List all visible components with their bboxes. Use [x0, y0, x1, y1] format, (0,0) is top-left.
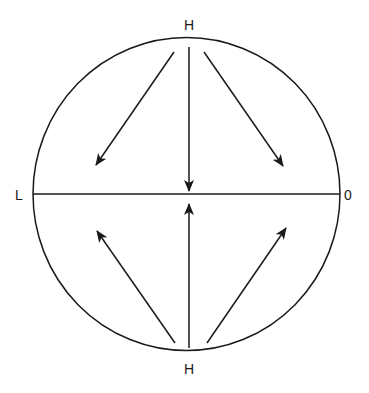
bottom-right-arrow [207, 228, 286, 343]
label-left-l: L [15, 188, 23, 202]
label-top-h: H [184, 18, 194, 32]
pressure-flow-diagram [0, 0, 369, 393]
label-right-0: 0 [344, 188, 352, 202]
top-left-arrow [96, 52, 174, 165]
top-right-arrow [204, 52, 283, 166]
bottom-left-arrow [97, 231, 175, 343]
arrow-group [96, 47, 286, 348]
label-bottom-h: H [184, 362, 194, 376]
